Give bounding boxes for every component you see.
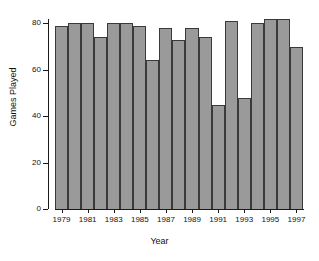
bar [68,23,81,209]
plot-area [55,14,303,209]
y-tick-label: 0 [0,205,41,213]
x-tick-label: 1991 [209,215,227,224]
x-tick-label: 1985 [131,215,149,224]
bar [225,21,238,209]
bar [133,26,146,209]
x-tick [218,209,219,213]
bar [81,23,94,209]
y-tick-label-wrap: 80 [0,19,41,27]
y-tick-label: 80 [0,19,41,27]
y-axis-title: Games Played [8,37,18,157]
bar [94,37,107,209]
bar [107,23,120,209]
bar [172,40,185,209]
x-tick-label: 1983 [105,215,123,224]
x-tick [88,209,89,213]
bar [264,19,277,209]
y-tick-label-wrap: 40 [0,112,41,120]
bar [251,23,264,209]
bar [120,23,133,209]
x-tick-label: 1987 [157,215,175,224]
x-tick-label: 1981 [79,215,97,224]
x-tick-label: 1997 [288,215,306,224]
x-tick-label: 1993 [235,215,253,224]
x-tick [114,209,115,213]
bar [146,60,159,209]
x-tick [296,209,297,213]
y-tick [43,163,48,164]
bar [55,26,68,209]
x-tick [270,209,271,213]
y-tick-label-wrap: 60 [0,66,41,74]
x-axis-title: Year [0,236,319,246]
y-tick-label: 40 [0,112,41,120]
bar [277,19,290,209]
bar [159,28,172,209]
y-tick-label-wrap: 20 [0,159,41,167]
x-tick-label: 1979 [53,215,71,224]
y-tick-label: 60 [0,66,41,74]
x-tick-label: 1989 [183,215,201,224]
x-tick [166,209,167,213]
x-tick [140,209,141,213]
x-tick-label: 1995 [261,215,279,224]
x-tick [244,209,245,213]
y-tick [43,23,48,24]
bar [212,105,225,209]
y-tick-label: 20 [0,159,41,167]
y-tick [43,116,48,117]
bar [238,98,251,209]
x-axis-line [55,209,304,210]
bar [290,47,303,210]
y-tick [43,209,48,210]
y-tick-label-wrap: 0 [0,205,41,213]
x-tick [62,209,63,213]
bar-series [55,14,303,209]
bar [185,28,198,209]
x-tick [192,209,193,213]
y-tick [43,70,48,71]
bar [199,37,212,209]
bar-chart: 020406080 197919811983198519871989199119… [0,0,319,261]
y-axis-line [48,19,49,209]
